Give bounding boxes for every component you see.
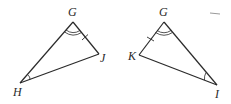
diagram-svg — [0, 0, 231, 104]
angle-g-double-arc — [66, 30, 80, 33]
angle-g-double-arc — [157, 31, 171, 33]
side-ki — [139, 55, 217, 85]
side-gj — [73, 22, 99, 54]
side-gk — [139, 22, 164, 55]
triangle-gki — [139, 22, 217, 85]
label-right-i: I — [215, 88, 219, 100]
label-left-h: H — [13, 86, 22, 98]
angle-i-arc — [204, 73, 206, 81]
side-gi — [164, 22, 217, 85]
angle-h-arc — [28, 75, 31, 80]
label-left-j: J — [100, 52, 105, 64]
triangle-ghj — [20, 22, 99, 83]
label-right-k: K — [128, 50, 136, 62]
label-left-g: G — [68, 6, 77, 18]
label-right-g: G — [159, 6, 168, 18]
congruent-triangles-diagram: G J H G K I — [0, 0, 231, 104]
stray-mark — [210, 13, 220, 14]
